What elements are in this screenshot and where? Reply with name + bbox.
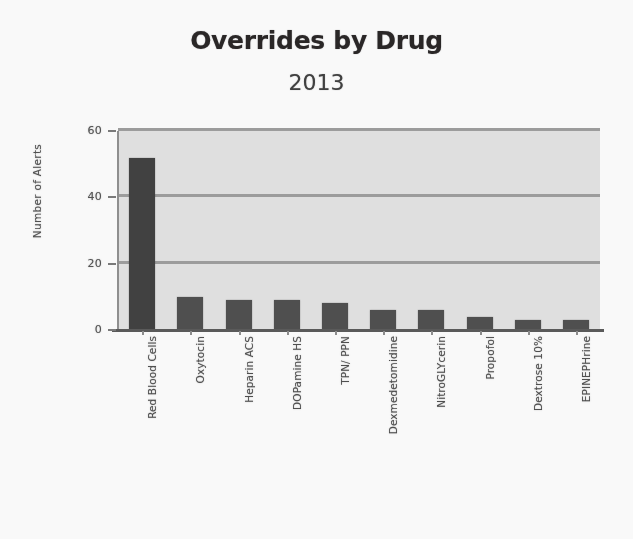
bar-1 [177,297,203,330]
x-tick-mark-4 [335,331,337,335]
chart-title: Overrides by Drug [0,26,633,55]
bar-5 [370,310,396,330]
plot-area [118,131,600,330]
x-tick-label-4: TPN/ PPN [339,336,351,385]
y-tick-label-60: 60 [76,124,102,137]
y-tick-label-40: 40 [76,190,102,203]
bar-7 [467,317,493,330]
x-tick-label-8: Dextrose 10% [532,336,544,411]
y-tick-label-20: 20 [76,257,102,270]
x-tick-label-3: DOPamine HS [291,336,303,410]
x-tick-mark-3 [287,331,289,335]
bar-4 [322,303,348,330]
gridline-60 [118,128,600,131]
chart-subtitle: 2013 [0,70,633,95]
y-tick-mark-20 [108,263,116,265]
x-tick-label-2: Heparin ACS [243,336,255,403]
x-tick-mark-0 [142,331,144,335]
y-axis-title: Number of Alerts [31,126,43,256]
y-tick-mark-40 [108,196,116,198]
x-tick-label-9: EPINEPHrine [580,336,592,402]
y-tick-mark-0 [108,329,116,331]
x-tick-label-6: NitroGLYcerin [435,336,447,408]
bar-3 [274,300,300,330]
x-tick-label-1: Oxytocin [194,336,206,383]
chart-figure: Overrides by Drug 2013 Number of Alerts … [0,0,633,539]
x-tick-mark-8 [528,331,530,335]
bar-0 [129,158,155,330]
y-tick-label-0: 0 [76,323,102,336]
x-tick-mark-1 [190,331,192,335]
x-tick-mark-9 [576,331,578,335]
bar-6 [418,310,444,330]
x-tick-label-5: Dexmedetomidine [387,336,399,434]
x-tick-mark-5 [383,331,385,335]
bar-2 [226,300,252,330]
x-axis-line [112,329,604,332]
gridline-20 [118,261,600,264]
x-tick-label-0: Red Blood Cells [146,336,158,419]
x-tick-mark-6 [431,331,433,335]
x-tick-mark-2 [239,331,241,335]
gridline-40 [118,194,600,197]
y-axis-line [117,131,119,331]
y-tick-mark-60 [108,130,116,132]
x-tick-mark-7 [480,331,482,335]
x-tick-label-7: Propofol [484,336,496,380]
